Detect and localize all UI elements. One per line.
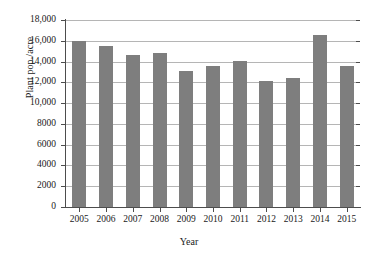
bar <box>259 81 273 207</box>
y-axis-tick-label: 2000 <box>0 181 56 190</box>
y-axis-tick-label: 4000 <box>0 160 56 169</box>
bar-chart-figure: Plant pop./acre 0200040006000800010,0001… <box>0 0 378 269</box>
bar <box>286 78 300 207</box>
bar <box>126 55 140 207</box>
y-axis-tick-label: 14,000 <box>0 57 56 66</box>
x-axis-tick-label: 2015 <box>327 214 367 224</box>
y-axis-tick <box>61 82 65 83</box>
plot-area <box>66 20 360 207</box>
y-axis-tick <box>61 145 65 146</box>
y-axis-tick-label: 10,000 <box>0 98 56 107</box>
x-axis-tick <box>347 208 348 212</box>
y-axis-tick <box>61 62 65 63</box>
bar <box>179 71 193 207</box>
y-axis-tick <box>61 124 65 125</box>
x-axis-tick <box>160 208 161 212</box>
y-axis-tick <box>61 20 65 21</box>
y-axis-tick-right <box>356 124 360 125</box>
y-axis-tick <box>61 207 65 208</box>
x-axis-tick <box>320 208 321 212</box>
y-axis-tick <box>61 165 65 166</box>
y-axis-tick <box>61 103 65 104</box>
y-axis-tick-right <box>356 82 360 83</box>
x-axis-title: Year <box>0 236 378 247</box>
x-axis-tick <box>240 208 241 212</box>
bar <box>313 35 327 207</box>
x-axis-tick <box>133 208 134 212</box>
y-axis-tick-right <box>356 186 360 187</box>
y-axis-tick-label: 6000 <box>0 140 56 149</box>
bar <box>72 41 86 207</box>
bar <box>233 61 247 207</box>
y-axis-tick-right <box>356 165 360 166</box>
x-axis-tick <box>293 208 294 212</box>
y-axis-tick-right <box>356 20 360 21</box>
y-axis-tick-right <box>356 41 360 42</box>
y-axis-tick-right <box>356 62 360 63</box>
y-axis-tick-right <box>356 103 360 104</box>
y-axis-tick-right <box>356 207 360 208</box>
y-axis-tick <box>61 186 65 187</box>
y-axis-tick-right <box>356 145 360 146</box>
y-axis-tick <box>61 41 65 42</box>
x-axis-tick <box>186 208 187 212</box>
y-axis-tick-label: 18,000 <box>0 15 56 24</box>
bar <box>99 46 113 207</box>
bar <box>153 53 167 207</box>
grid-line <box>66 20 360 21</box>
y-axis-tick-label: 0 <box>0 202 56 211</box>
y-axis-tick-label: 12,000 <box>0 77 56 86</box>
y-axis-tick-label: 8000 <box>0 119 56 128</box>
y-axis-tick-label: 16,000 <box>0 36 56 45</box>
x-axis-tick <box>106 208 107 212</box>
x-axis-tick <box>266 208 267 212</box>
x-axis-tick <box>79 208 80 212</box>
bar <box>340 66 354 207</box>
x-axis-tick <box>213 208 214 212</box>
bar <box>206 66 220 207</box>
